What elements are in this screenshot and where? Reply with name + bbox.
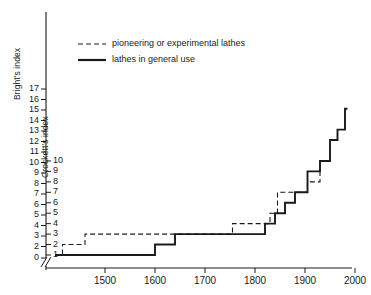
ytick-label-bright: 7 (0, 188, 39, 198)
ytick-label-bright: 0 (0, 252, 39, 262)
xtick-label: 1700 (177, 275, 233, 286)
xtick-label: 1500 (77, 275, 133, 286)
ytick-label-crockett: 10 (53, 155, 63, 165)
ytick-label-crockett: 7 (53, 186, 58, 196)
ytick-label-bright: 5 (0, 209, 39, 219)
ytick-label-bright: 10 (0, 157, 39, 167)
ytick-label-bright: 6 (0, 199, 39, 209)
xtick-label: 1900 (277, 275, 333, 286)
legend-label: pioneering or experimental lathes (112, 38, 245, 48)
ytick-label-crockett: 3 (53, 228, 58, 238)
ytick-label-bright: 14 (0, 115, 39, 125)
legend-label: lathes in general use (112, 54, 195, 64)
ytick-label-crockett: 5 (53, 207, 58, 217)
ytick-label-bright: 12 (0, 136, 39, 146)
ytick-label-bright: 15 (0, 104, 39, 114)
ytick-label-crockett: 6 (53, 197, 58, 207)
series-line-general-use (55, 109, 348, 255)
ytick-label-bright: 3 (0, 230, 39, 240)
xtick-label: 1800 (227, 275, 283, 286)
ytick-label-bright: 8 (0, 178, 39, 188)
y-axis-title-crockett: Crockett's index (40, 116, 50, 178)
ytick-label-crockett: 4 (53, 218, 58, 228)
ytick-label-crockett: 2 (53, 239, 58, 249)
xtick-label: 2000 (327, 275, 371, 286)
xtick-label: 1600 (127, 275, 183, 286)
y-axis-title-bright: Bright's index (12, 48, 22, 100)
ytick-label-bright: 13 (0, 125, 39, 135)
ytick-label-bright: 9 (0, 167, 39, 177)
ytick-label-crockett: 8 (53, 176, 58, 186)
ytick-label-bright: 11 (0, 146, 39, 156)
ytick-label-crockett: 9 (53, 165, 58, 175)
ytick-label-bright: 4 (0, 220, 39, 230)
ytick-label-bright: 2 (0, 241, 39, 251)
ytick-label-crockett: 1 (53, 249, 58, 259)
